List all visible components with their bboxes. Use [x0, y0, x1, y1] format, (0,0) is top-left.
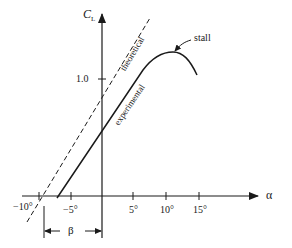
x-tick-label-5: 5°	[129, 205, 138, 215]
stall-label: stall	[194, 33, 211, 43]
x-axis-label: α	[266, 189, 272, 201]
x-tick-label-10: 10°	[160, 205, 174, 215]
x-tick-label-neg10: −10°	[13, 202, 33, 212]
beta-label: β	[68, 225, 74, 236]
y-tick-label-1: 1.0	[76, 74, 89, 84]
x-tick-label-15: 15°	[193, 205, 207, 215]
lift-curve-diagram	[0, 0, 292, 248]
y-axis-label: CL	[83, 8, 95, 23]
x-tick-label-neg5: −5°	[63, 205, 78, 215]
stall-pointer	[175, 40, 191, 51]
